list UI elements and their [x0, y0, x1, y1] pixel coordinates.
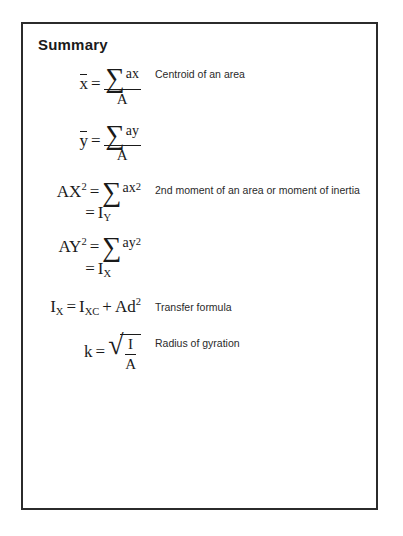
formula-row-centroid-y: y=∑ayA [23, 121, 378, 164]
equals-sign: = [90, 182, 100, 201]
sum-argument-exponent: 2 [136, 237, 141, 248]
lhs-base: AY [58, 237, 81, 256]
formula-second-moment-x: AY2=∑ay2 =IX [23, 235, 145, 279]
formula-transfer: IX=IXC+Ad2 [23, 297, 145, 317]
ix-subscript: X [103, 268, 111, 279]
description-second-moment: 2nd moment of an area or moment of inert… [145, 180, 378, 197]
formula-row-transfer: IX=IXC+Ad2 Transfer formula [23, 297, 378, 317]
sum-argument: ax [126, 66, 139, 81]
square-root-icon: √IA [108, 334, 141, 374]
formula-centroid-x: x=∑axA [23, 64, 145, 107]
plus-sign: + [102, 297, 112, 316]
equals-sign: = [90, 237, 100, 256]
x-bar-variable: x [79, 73, 88, 94]
radical-glyph: √ [108, 334, 123, 357]
sigma-icon: ∑ [102, 182, 121, 204]
k-variable: k [84, 342, 93, 361]
ixc-subscript: XC [85, 306, 100, 317]
equals-sign: = [96, 342, 106, 361]
sum-argument: ay [126, 123, 139, 138]
description-transfer-formula: Transfer formula [145, 297, 378, 314]
description-centroid-x: Centroid of an area [145, 64, 378, 81]
sigma-icon: ∑ [102, 237, 121, 259]
formula-second-moment-y-line2: =IY [23, 203, 141, 223]
description-centroid-y [145, 121, 378, 125]
ad-term: Ad [115, 297, 136, 316]
iy-subscript: Y [103, 212, 111, 223]
formula-row-centroid-x: x=∑axA Centroid of an area [23, 64, 378, 107]
description-radius-gyration: Radius of gyration [145, 333, 378, 350]
summary-box: Summary x=∑axA Centroid of an area y=∑ay… [21, 22, 378, 510]
equals-sign: = [85, 203, 95, 222]
equals-sign: = [85, 259, 95, 278]
equals-sign: = [91, 74, 101, 93]
sigma-icon: ∑ [106, 125, 125, 147]
fraction-centroid-y: ∑ayA [104, 122, 141, 165]
radicand-denominator: A [125, 355, 136, 374]
formula-radius-gyration: k=√IA [23, 333, 145, 373]
formula-row-second-moment-y: AX2=∑ax2 =IY 2nd moment of an area or mo… [23, 180, 378, 224]
formula-row-second-moment-x: AY2=∑ay2 =IX [23, 235, 378, 279]
formula-list: x=∑axA Centroid of an area y=∑ayA A [23, 64, 378, 373]
description-second-moment-x [145, 235, 378, 239]
formula-second-moment-x-line2: =IX [23, 259, 141, 279]
sum-argument-exponent: 2 [136, 181, 141, 192]
lhs-base: AX [57, 182, 82, 201]
page-title: Summary [38, 36, 108, 53]
equals-sign: = [91, 131, 101, 150]
y-bar-variable: y [79, 130, 88, 151]
sigma-icon: ∑ [106, 68, 125, 90]
formula-row-radius-gyration: k=√IA Radius of gyration [23, 333, 378, 373]
page-canvas: Summary x=∑axA Centroid of an area y=∑ay… [0, 0, 403, 536]
ad-exponent: 2 [136, 296, 141, 307]
sum-argument: ax [123, 180, 136, 195]
radicand-numerator: I [125, 335, 136, 355]
equals-sign: = [66, 297, 76, 316]
formula-centroid-y: y=∑ayA [23, 121, 145, 164]
lhs-exponent: 2 [81, 181, 86, 192]
fraction-centroid-x: ∑axA [104, 65, 141, 108]
sum-argument: ay [123, 235, 136, 250]
formula-second-moment-y: AX2=∑ax2 =IY [23, 180, 145, 224]
lhs-exponent: 2 [81, 237, 86, 248]
ix-subscript: X [56, 306, 64, 317]
